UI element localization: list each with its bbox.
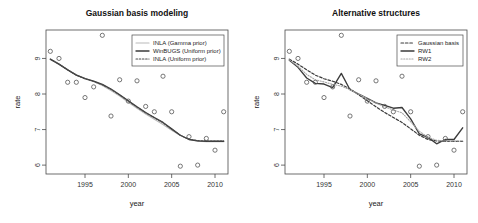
- data-point: [74, 80, 78, 84]
- data-point: [196, 163, 200, 167]
- data-point: [161, 74, 165, 78]
- data-point: [66, 80, 70, 84]
- plot-left: Gaussian basis modeling67891995200020052…: [13, 8, 228, 208]
- data-point: [100, 33, 104, 37]
- legend-label: INLA (Gamma prior): [153, 40, 207, 46]
- series-line-3: [50, 59, 223, 141]
- data-point: [213, 148, 217, 152]
- data-point: [170, 110, 174, 114]
- y-axis-label: rate: [252, 96, 261, 109]
- chart-title: Alternative structures: [332, 8, 420, 18]
- legend-label: RW1: [418, 48, 432, 54]
- series-line-2: [289, 60, 462, 144]
- chart-svg-right: Alternative structures678919952000200520…: [239, 0, 478, 223]
- x-axis-tick-label: 1995: [77, 181, 93, 188]
- legend-label: WinBUGS (Uniform prior): [153, 48, 221, 54]
- data-point: [287, 49, 291, 53]
- data-point: [83, 95, 87, 99]
- data-point: [305, 80, 309, 84]
- data-point: [348, 114, 352, 118]
- data-point: [417, 164, 421, 168]
- series-line-1: [289, 59, 462, 141]
- data-point: [204, 136, 208, 140]
- series-line-2: [50, 59, 223, 141]
- y-axis-tick-label: 6: [34, 163, 41, 167]
- x-axis-tick-label: 2005: [403, 181, 419, 188]
- data-point: [222, 110, 226, 114]
- data-point: [48, 49, 52, 53]
- x-axis-tick-label: 2010: [446, 181, 462, 188]
- data-point: [118, 78, 122, 82]
- x-axis-tick-label: 2010: [207, 181, 223, 188]
- data-point: [409, 110, 413, 114]
- data-point: [92, 85, 96, 89]
- data-point: [374, 79, 378, 83]
- x-axis-tick-label: 2000: [360, 181, 376, 188]
- data-point: [339, 33, 343, 37]
- y-axis-tick-label: 9: [273, 56, 280, 60]
- y-axis-tick-label: 6: [273, 163, 280, 167]
- data-point: [452, 148, 456, 152]
- figure-container: Gaussian basis modeling67891995200020052…: [0, 0, 478, 223]
- chart-panel-left: Gaussian basis modeling67891995200020052…: [0, 0, 239, 223]
- x-axis-tick-label: 2000: [121, 181, 137, 188]
- y-axis-tick-label: 8: [34, 92, 41, 96]
- data-point: [187, 135, 191, 139]
- series-line-3: [289, 60, 462, 141]
- data-point: [400, 74, 404, 78]
- x-axis-tick-label: 2005: [164, 181, 180, 188]
- y-axis-tick-label: 7: [34, 128, 41, 132]
- data-point: [322, 95, 326, 99]
- data-point: [57, 56, 61, 60]
- x-axis-label: year: [369, 199, 384, 208]
- data-point: [109, 114, 113, 118]
- y-axis-tick-label: 8: [273, 92, 280, 96]
- data-point: [144, 104, 148, 108]
- y-axis-tick-label: 7: [273, 128, 280, 132]
- y-axis-label: rate: [13, 96, 22, 109]
- x-axis-tick-label: 1995: [316, 181, 332, 188]
- data-point: [357, 78, 361, 82]
- legend-label: Gaussian basis: [418, 40, 459, 46]
- chart-title: Gaussian basis modeling: [86, 8, 189, 18]
- plot-right: Alternative structures678919952000200520…: [252, 8, 467, 208]
- y-axis-tick-label: 9: [34, 56, 41, 60]
- series-line-1: [50, 60, 223, 142]
- chart-panel-right: Alternative structures678919952000200520…: [239, 0, 478, 223]
- data-point: [461, 110, 465, 114]
- data-point: [152, 110, 156, 114]
- data-point: [178, 164, 182, 168]
- legend-label: INLA (Uniform prior): [153, 56, 206, 62]
- data-point: [435, 163, 439, 167]
- data-point: [296, 56, 300, 60]
- legend-label: RW2: [418, 56, 432, 62]
- data-point: [135, 79, 139, 83]
- chart-svg-left: Gaussian basis modeling67891995200020052…: [0, 0, 239, 223]
- x-axis-label: year: [130, 199, 145, 208]
